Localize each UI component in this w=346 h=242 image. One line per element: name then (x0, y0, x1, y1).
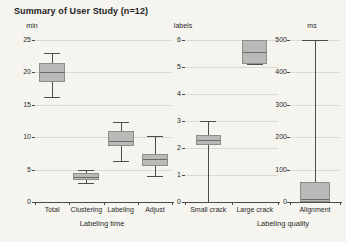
y-tick-label: 6 (161, 36, 181, 44)
y-tick-mark (32, 170, 35, 171)
x-tick-mark (290, 202, 291, 205)
y-tick-label: 1 (161, 171, 181, 179)
whisker-cap-top-total (44, 53, 60, 54)
median-line-total (40, 72, 64, 73)
x-category-label-large-crack: Large crack (223, 206, 287, 214)
box-plot-labeling (108, 131, 134, 147)
y-tick-label: 100 (267, 166, 287, 174)
y-tick-label: 0 (161, 198, 181, 206)
gridline (35, 170, 172, 171)
gridline (185, 121, 278, 122)
y-tick-label: 300 (267, 101, 287, 109)
y-tick-label: 400 (267, 68, 287, 76)
whisker-cap-bottom-labeling (113, 161, 129, 162)
x-axis-line (32, 202, 174, 203)
y-tick-label: 500 (267, 36, 287, 44)
y-tick-mark (287, 105, 290, 106)
whisker-line-small-crack (208, 121, 209, 202)
y-tick-label: 4 (161, 90, 181, 98)
y-tick-mark (32, 137, 35, 138)
gridline (185, 94, 278, 95)
y-tick-label: 5 (11, 166, 31, 174)
x-tick-mark (138, 202, 139, 205)
y-tick-label: 25 (11, 36, 31, 44)
y-tick-label: 15 (11, 101, 31, 109)
y-tick-label: 2 (161, 144, 181, 152)
gridline (185, 67, 278, 68)
y-tick-label: 0 (11, 198, 31, 206)
x-tick-mark (232, 202, 233, 205)
y-tick-label: 200 (267, 133, 287, 141)
gridline (35, 137, 172, 138)
x-tick-mark (340, 202, 341, 205)
y-axis-unit-label: ms (296, 22, 328, 30)
whisker-cap-bottom-total (44, 97, 60, 98)
median-line-large-crack (243, 52, 266, 53)
whisker-cap-top-clustering (78, 170, 94, 171)
median-line-clustering (74, 177, 98, 178)
chart-figure: Summary of User Study (n=12) min05101520… (0, 0, 346, 242)
gridline (185, 175, 278, 176)
y-tick-mark (182, 148, 185, 149)
x-tick-mark (69, 202, 70, 205)
y-tick-label: 0 (267, 198, 287, 206)
y-tick-mark (32, 72, 35, 73)
y-tick-mark (182, 67, 185, 68)
whisker-cap-top-alignment (302, 40, 328, 41)
median-line-adjust (143, 159, 167, 160)
x-tick-mark (185, 202, 186, 205)
whisker-cap-bottom-clustering (78, 183, 94, 184)
x-axis-title: Labeling quality (238, 220, 328, 228)
x-axis-title: Labeling time (57, 220, 147, 228)
y-tick-mark (182, 94, 185, 95)
y-tick-label: 3 (161, 117, 181, 125)
whisker-cap-bottom-large-crack (247, 64, 263, 65)
whisker-cap-top-small-crack (200, 121, 216, 122)
x-tick-mark (35, 202, 36, 205)
x-tick-mark (104, 202, 105, 205)
y-axis-unit-label: labels (167, 22, 199, 30)
y-tick-label: 10 (11, 133, 31, 141)
whisker-cap-top-labeling (113, 122, 129, 123)
y-tick-mark (182, 121, 185, 122)
whisker-cap-top-adjust (147, 136, 163, 137)
y-tick-mark (287, 170, 290, 171)
whisker-cap-bottom-small-crack (200, 202, 216, 203)
x-category-label-alignment: Alignment (283, 206, 346, 214)
y-tick-label: 5 (161, 63, 181, 71)
y-tick-mark (182, 40, 185, 41)
median-line-small-crack (197, 140, 220, 141)
gridline (35, 40, 172, 41)
y-tick-mark (287, 72, 290, 73)
whisker-cap-bottom-alignment (302, 202, 328, 203)
charts-canvas: min0510152025TotalClusteringLabelingAdju… (0, 0, 346, 242)
median-line-alignment (301, 199, 329, 200)
y-tick-mark (32, 40, 35, 41)
median-line-labeling (109, 141, 133, 142)
y-axis-unit-label: min (16, 22, 48, 30)
box-plot-adjust (142, 154, 168, 166)
gridline (35, 105, 172, 106)
x-axis-line (182, 202, 280, 203)
whisker-line-alignment (315, 40, 316, 202)
gridline (185, 148, 278, 149)
y-tick-mark (32, 105, 35, 106)
y-tick-mark (287, 40, 290, 41)
y-tick-label: 20 (11, 68, 31, 76)
y-tick-mark (287, 137, 290, 138)
y-tick-mark (182, 175, 185, 176)
